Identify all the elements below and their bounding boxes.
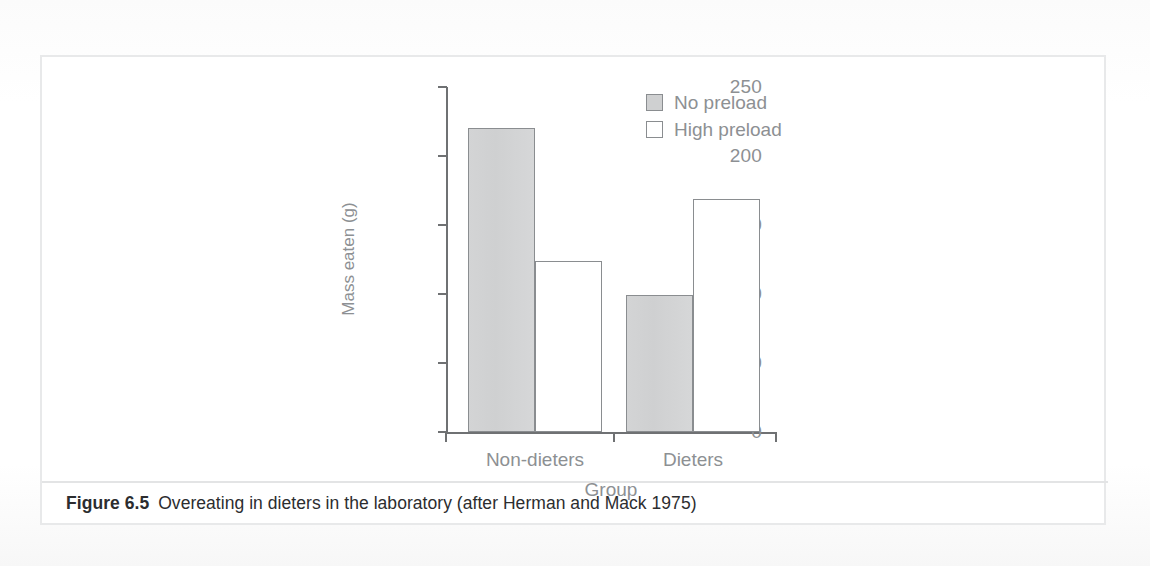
legend-swatch-no-preload — [646, 94, 663, 111]
legend-swatch-high-preload — [646, 121, 663, 138]
figure-caption: Figure 6.5Overeating in dieters in the l… — [66, 493, 697, 514]
plot-area: 050100150200250 Non-dietersDieters Mass … — [446, 87, 776, 432]
bar — [626, 295, 693, 432]
x-axis-end-tick — [775, 432, 777, 442]
caption-divider — [42, 481, 1108, 483]
y-tick — [438, 362, 447, 364]
x-group-separator-tick — [613, 432, 615, 442]
bar-chart: 050100150200250 Non-dietersDieters Mass … — [42, 57, 1108, 482]
figure-number: Figure 6.5 — [66, 493, 149, 513]
legend-item: High preload — [646, 116, 782, 143]
chart-legend: No preloadHigh preload — [646, 89, 782, 143]
legend-label: High preload — [674, 119, 782, 141]
y-tick — [438, 293, 447, 295]
y-tick — [438, 224, 447, 226]
y-tick — [438, 86, 447, 88]
y-tick-label: 200 — [730, 145, 762, 167]
legend-item: No preload — [646, 89, 782, 116]
y-axis-title: Mass eaten (g) — [339, 202, 359, 315]
x-axis-line — [446, 432, 776, 434]
figure-box: 050100150200250 Non-dietersDieters Mass … — [40, 55, 1106, 525]
bar — [535, 261, 602, 432]
x-axis-end-tick — [445, 432, 447, 442]
bar — [468, 128, 535, 432]
scanned-page: 050100150200250 Non-dietersDieters Mass … — [0, 0, 1150, 566]
bar — [693, 199, 760, 432]
legend-label: No preload — [674, 92, 767, 114]
figure-caption-text: Overeating in dieters in the laboratory … — [158, 493, 696, 513]
y-axis-line — [446, 87, 448, 433]
x-category-label: Non-dieters — [486, 449, 584, 471]
y-tick — [438, 155, 447, 157]
x-category-label: Dieters — [663, 449, 723, 471]
